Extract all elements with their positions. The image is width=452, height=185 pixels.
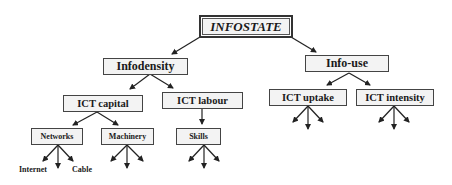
node-label: Networks — [41, 132, 74, 141]
node-ict-intensity: ICT intensity — [356, 89, 434, 106]
node-networks: Networks — [31, 128, 83, 145]
node-ict-capital: ICT capital — [63, 95, 143, 112]
node-label: Skills — [189, 132, 208, 141]
node-infodensity: Infodensity — [103, 58, 188, 75]
node-machinery: Machinery — [101, 128, 154, 145]
node-label: ICT intensity — [365, 92, 425, 103]
node-ict-labour: ICT labour — [162, 92, 243, 109]
node-label: INFOSTATE — [210, 19, 282, 35]
node-label: ICT uptake — [282, 92, 334, 103]
node-skills: Skills — [176, 128, 221, 145]
leaf-cable: Cable — [72, 165, 92, 174]
node-label: ICT labour — [177, 95, 228, 106]
node-ict-uptake: ICT uptake — [269, 89, 347, 106]
node-label: Info-use — [326, 56, 368, 71]
node-label: Machinery — [109, 132, 146, 141]
node-label: ICT capital — [77, 98, 128, 109]
node-info-use: Info-use — [305, 55, 389, 72]
leaf-internet: Internet — [19, 165, 47, 174]
node-label: Infodensity — [116, 59, 174, 74]
node-infostate: INFOSTATE — [199, 15, 293, 38]
